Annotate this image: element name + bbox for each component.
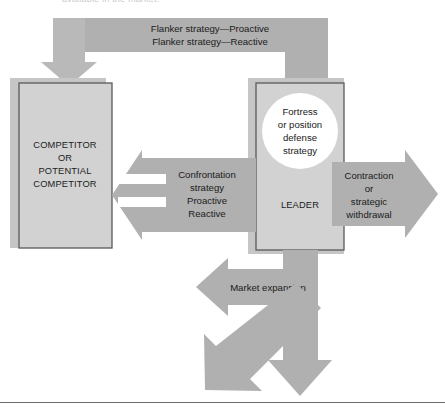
leader-box <box>248 78 344 254</box>
confrontation-strategy-arrows <box>112 150 256 240</box>
confrontation-arrow-body <box>112 150 256 240</box>
confrontation-label-line3: Proactive <box>187 195 227 206</box>
confrontation-label-line2: strategy <box>190 182 224 193</box>
competitor-label-line3: POTENTIAL <box>38 166 91 176</box>
confrontation-label-line4: Reactive <box>188 208 225 219</box>
fortress-label-line3: defense <box>283 132 317 143</box>
contraction-arrow-body <box>332 150 438 238</box>
competitor-label-line4: COMPETITOR <box>33 179 96 189</box>
contraction-label-line3: strategic <box>351 196 387 207</box>
confrontation-arrow-gap-2 <box>118 197 166 207</box>
confrontation-label-line1: Confrontation <box>178 169 236 180</box>
leader-label: LEADER <box>281 200 319 210</box>
flanker-reactive-label: Flanker strategy—Reactive <box>152 36 268 47</box>
flanker-proactive-label: Flanker strategy—Proactive <box>151 23 269 34</box>
fortress-label-line1: Fortress <box>282 106 317 117</box>
competitor-box <box>10 78 112 248</box>
fortress-defense-circle <box>262 93 338 169</box>
contraction-label-line4: withdrawal <box>345 209 391 220</box>
fortress-label-line2: or position <box>278 119 322 130</box>
contraction-label-line2: or <box>365 183 374 194</box>
fortress-label-line4: strategy <box>283 145 317 156</box>
contraction-label-line1: Contraction <box>344 170 393 181</box>
strategy-diagram: Flanker strategy—Proactive Flanker strat… <box>0 0 445 417</box>
confrontation-arrow-gap-1 <box>118 174 166 184</box>
competitor-label-line2: OR <box>58 153 72 163</box>
contraction-withdrawal-arrow <box>332 150 438 238</box>
competitor-label-line1: COMPETITOR <box>33 140 96 150</box>
